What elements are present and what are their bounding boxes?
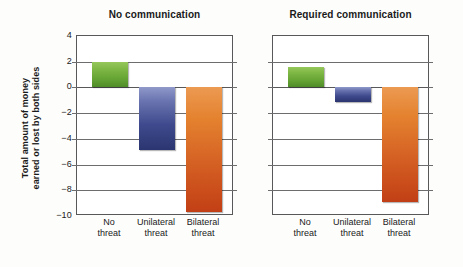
- x-label-unilateral-threat: Unilateral threat: [333, 217, 371, 239]
- panel-title-no-communication: No communication: [109, 9, 201, 20]
- bar-no-communication-bilateral-threat[interactable]: [186, 87, 222, 212]
- plot-area-left: [76, 35, 233, 215]
- bar-no-communication-unilateral-threat[interactable]: [139, 87, 175, 150]
- y-axis-tick-labels: 4 2 0 −2 −4 −6 −8 −10: [44, 30, 72, 220]
- x-axis-labels-left: No threat Unilateral threat Bilateral th…: [76, 217, 233, 257]
- x-axis-labels-right: No threat Unilateral threat Bilateral th…: [272, 217, 429, 257]
- x-label-bilateral-threat: Bilateral threat: [383, 217, 416, 239]
- y-axis-title-line-1: Total amount of money: [20, 66, 31, 189]
- y-axis-title-line-2: earned or lost by both sides: [31, 66, 42, 189]
- y-tick-label-neg2: −2: [44, 108, 72, 117]
- y-tick-label-neg8: −8: [44, 185, 72, 194]
- bar-chart-figure: Total amount of money earned or lost by …: [0, 0, 463, 267]
- y-tick-label-2: 2: [44, 56, 72, 65]
- y-tick-label-neg4: −4: [44, 133, 72, 142]
- bar-no-communication-no-threat[interactable]: [92, 62, 128, 88]
- plot-area-right: [272, 35, 429, 215]
- y-tick-label-0: 0: [44, 82, 72, 91]
- bars-right: [273, 36, 428, 214]
- bar-required-communication-bilateral-threat[interactable]: [382, 87, 418, 201]
- bar-required-communication-unilateral-threat[interactable]: [335, 87, 371, 101]
- x-label-no-threat: No threat: [97, 217, 120, 239]
- x-label-unilateral-threat: Unilateral threat: [137, 217, 175, 239]
- x-label-no-threat: No threat: [293, 217, 316, 239]
- bar-required-communication-no-threat[interactable]: [288, 67, 324, 88]
- x-label-bilateral-threat: Bilateral threat: [187, 217, 220, 239]
- panel-title-required-communication: Required communication: [289, 9, 411, 20]
- y-tick-label-neg10: −10: [44, 211, 72, 220]
- panel-no-communication: No communication No threat Unilateral: [76, 35, 233, 215]
- panel-required-communication: Required communication No threat Unilate…: [272, 35, 429, 215]
- y-tick-label-4: 4: [44, 31, 72, 40]
- y-axis-title: Total amount of money earned or lost by …: [20, 35, 42, 220]
- y-tick-label-neg6: −6: [44, 159, 72, 168]
- bars-left: [77, 36, 232, 214]
